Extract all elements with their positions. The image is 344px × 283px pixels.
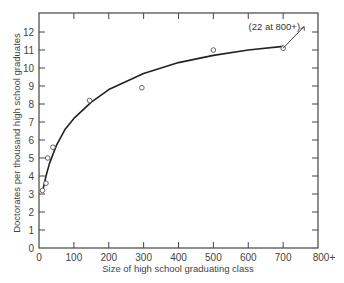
y-tick-label: 8 [28,99,34,110]
fitted-curve-group [43,46,283,188]
y-tick-label: 3 [28,189,34,200]
y-axis-label: Doctorates per thousand high school grad… [11,33,22,233]
y-tick-label: 11 [24,45,35,56]
x-tick-label: 0 [36,252,42,263]
x-tick-label: 200 [100,252,117,263]
annotation-group: (22 at 800+) [249,21,305,49]
fitted-curve-line [43,46,283,188]
y-tick-label: 12 [23,27,35,38]
chart: 0100200300400500600700800+ 0123456789101… [0,0,344,283]
x-tick-label: 400 [170,252,187,263]
x-tick-label: 800+ [313,252,336,263]
x-tick-label: 600 [240,252,257,263]
x-tick-label: 500 [205,252,222,263]
data-point [40,188,45,193]
x-axis-label: Size of high school graduating class [102,263,254,274]
data-point [140,86,145,91]
x-tick-label: 700 [275,252,292,263]
y-tick-label: 2 [28,207,34,218]
data-point [44,181,49,186]
y-tick-label: 4 [28,171,34,182]
x-tick-label: 300 [135,252,152,263]
y-tick-label: 5 [28,153,34,164]
x-tick-label: 100 [66,252,83,263]
y-tick-label: 1 [28,225,34,236]
plot-frame [39,13,318,248]
y-tick-label: 10 [23,63,35,74]
y-axis-ticks: 0123456789101112 [23,27,318,254]
y-tick-label: 9 [28,81,34,92]
y-tick-label: 7 [28,117,34,128]
annotation-text: (22 at 800+) [249,21,301,32]
data-point [51,145,56,150]
plot-border [39,13,318,248]
y-tick-label: 0 [28,243,34,254]
data-point [211,48,216,53]
data-point [87,98,92,103]
x-axis-ticks: 0100200300400500600700800+ [36,13,335,263]
y-tick-label: 6 [28,135,34,146]
data-point [45,156,50,161]
